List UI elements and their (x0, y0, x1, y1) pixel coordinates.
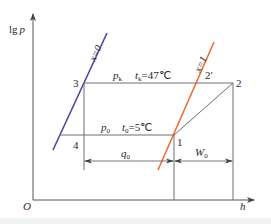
point-4-label: 4 (73, 139, 79, 151)
q0-label: q0 (121, 147, 131, 161)
evaporating-temperature-label: t0=5℃ (122, 121, 152, 135)
point-2prime-label: 2′ (205, 69, 213, 81)
y-axis-label: lgp (9, 23, 26, 35)
condensing-pressure-label: pk (112, 69, 123, 83)
lgp-h-diagram: lgp O h x=0 x=1 3 4 1 2 2′ pk tk=47℃ p0 … (0, 0, 271, 224)
condensing-temperature-label: tk=47℃ (135, 69, 171, 83)
compression-line (174, 83, 233, 135)
point-1-label: 1 (177, 136, 183, 148)
bottom-band (0, 218, 271, 224)
point-3-label: 3 (73, 77, 79, 89)
w0-label: W0 (195, 146, 208, 160)
point-2-label: 2 (236, 77, 242, 89)
origin-label: O (23, 200, 31, 212)
x-axis-label: h (240, 200, 246, 212)
evaporating-pressure-label: p0 (100, 121, 111, 135)
